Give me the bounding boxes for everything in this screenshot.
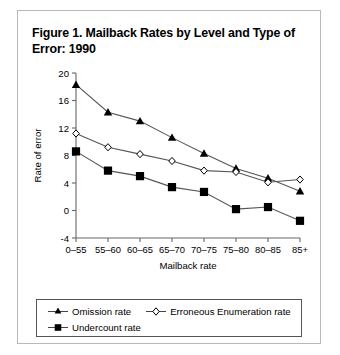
data-point-open-diamond xyxy=(105,144,112,151)
legend-row-1: Omission rate Erroneous Enumeration rate xyxy=(47,303,305,319)
open-diamond-icon xyxy=(145,306,167,317)
data-point-filled-triangle xyxy=(72,80,80,87)
x-tick-label: 60–65 xyxy=(127,244,153,255)
x-tick-label: 70–75 xyxy=(191,244,217,255)
legend-row-2: Undercount rate xyxy=(47,319,155,335)
data-point-filled-square xyxy=(168,183,176,191)
x-tick-label: 0–55 xyxy=(66,244,87,255)
y-tick-label: 8 xyxy=(64,150,69,161)
data-point-open-diamond xyxy=(297,176,304,183)
data-point-open-diamond xyxy=(169,157,176,164)
x-tick-label: 55–60 xyxy=(95,244,121,255)
y-axis-title: Rate of error xyxy=(32,128,43,183)
data-point-filled-triangle xyxy=(168,133,176,140)
legend-item-erroneous-enumeration-rate: Erroneous Enumeration rate xyxy=(145,306,291,317)
figure-card: Figure 1. Mailback Rates by Level and Ty… xyxy=(17,10,321,344)
y-tick-label: 20 xyxy=(58,68,69,79)
data-point-filled-triangle xyxy=(296,187,304,194)
data-point-filled-square xyxy=(296,217,304,225)
x-tick-label: 75–80 xyxy=(223,244,249,255)
data-point-filled-square xyxy=(264,203,272,211)
filled-square-icon xyxy=(47,322,69,333)
legend-item-undercount-rate: Undercount rate xyxy=(47,322,141,333)
chart-plot-area: -4048121620Rate of error0–5555–6060–6565… xyxy=(28,63,312,285)
series-line xyxy=(76,85,300,192)
data-point-open-diamond xyxy=(73,130,80,137)
data-point-filled-triangle xyxy=(200,149,208,156)
series-omission-rate xyxy=(72,80,304,194)
series-undercount-rate xyxy=(72,147,304,225)
data-point-filled-square xyxy=(232,205,240,213)
y-tick-label: 12 xyxy=(58,123,69,134)
legend-label: Erroneous Enumeration rate xyxy=(170,306,291,317)
x-axis-title: Mailback rate xyxy=(159,260,216,271)
y-tick-label: 4 xyxy=(64,178,70,189)
y-tick-label: 0 xyxy=(64,205,69,216)
x-tick-label: 85+ xyxy=(292,244,308,255)
data-point-filled-square xyxy=(72,147,80,155)
y-tick-label: -4 xyxy=(60,233,69,244)
data-point-open-diamond xyxy=(201,167,208,174)
y-tick-label: 16 xyxy=(58,95,69,106)
x-tick-label: 65–70 xyxy=(159,244,185,255)
legend-item-omission-rate: Omission rate xyxy=(47,306,131,317)
chart-legend: Omission rate Erroneous Enumeration rate… xyxy=(36,299,302,337)
data-point-open-diamond xyxy=(137,151,144,158)
figure-title: Figure 1. Mailback Rates by Level and Ty… xyxy=(32,25,304,57)
data-point-filled-square xyxy=(200,188,208,196)
series-line xyxy=(76,134,300,183)
legend-label: Undercount rate xyxy=(72,322,141,333)
line-chart: -4048121620Rate of error0–5555–6060–6565… xyxy=(28,63,312,285)
data-point-filled-square xyxy=(104,167,112,175)
data-point-filled-square xyxy=(136,172,144,180)
legend-label: Omission rate xyxy=(72,306,131,317)
filled-triangle-icon xyxy=(47,306,69,317)
x-tick-label: 80–85 xyxy=(255,244,281,255)
